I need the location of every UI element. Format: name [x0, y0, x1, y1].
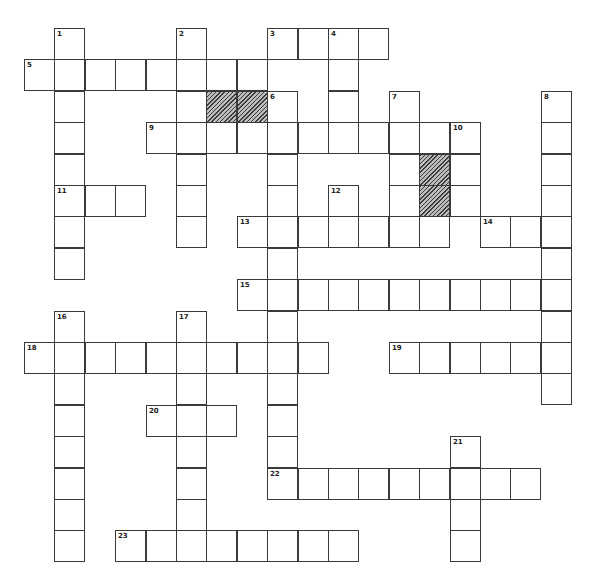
crossword-cell[interactable] [450, 279, 481, 311]
crossword-cell[interactable] [176, 405, 207, 437]
letter-input[interactable] [177, 92, 206, 122]
crossword-cell[interactable] [389, 216, 420, 248]
crossword-cell[interactable] [480, 279, 511, 311]
crossword-cell[interactable] [298, 530, 329, 562]
crossword-cell[interactable] [176, 436, 207, 468]
letter-input[interactable] [481, 343, 510, 373]
crossword-cell[interactable] [419, 216, 450, 248]
letter-input[interactable] [207, 60, 236, 90]
letter-input[interactable] [390, 123, 419, 153]
crossword-cell[interactable] [85, 59, 116, 91]
letter-input[interactable] [116, 186, 145, 216]
crossword-cell[interactable] [298, 28, 329, 60]
crossword-cell[interactable] [328, 530, 359, 562]
crossword-cell[interactable] [541, 185, 572, 217]
crossword-cell[interactable] [389, 279, 420, 311]
crossword-cell[interactable]: 15 [237, 279, 268, 311]
crossword-cell[interactable] [176, 59, 207, 91]
letter-input[interactable] [55, 29, 84, 59]
letter-input[interactable] [390, 186, 419, 216]
letter-input[interactable] [238, 217, 267, 247]
letter-input[interactable] [511, 280, 540, 310]
letter-input[interactable] [177, 155, 206, 185]
crossword-cell[interactable] [298, 216, 329, 248]
letter-input[interactable] [55, 469, 84, 499]
letter-input[interactable] [542, 155, 571, 185]
letter-input[interactable] [268, 29, 297, 59]
letter-input[interactable] [25, 343, 54, 373]
crossword-cell[interactable] [419, 342, 450, 374]
crossword-cell[interactable] [176, 342, 207, 374]
crossword-cell[interactable] [328, 91, 359, 123]
letter-input[interactable] [420, 469, 449, 499]
letter-input[interactable] [511, 217, 540, 247]
letter-input[interactable] [390, 469, 419, 499]
letter-input[interactable] [147, 531, 176, 561]
crossword-cell[interactable]: 13 [237, 216, 268, 248]
letter-input[interactable] [329, 92, 358, 122]
letter-input[interactable] [268, 531, 297, 561]
crossword-cell[interactable] [115, 59, 146, 91]
crossword-cell[interactable]: 8 [541, 91, 572, 123]
crossword-cell[interactable] [419, 468, 450, 500]
crossword-cell[interactable]: 3 [267, 28, 298, 60]
crossword-cell[interactable] [206, 530, 237, 562]
letter-input[interactable] [359, 469, 388, 499]
crossword-cell[interactable]: 11 [54, 185, 85, 217]
letter-input[interactable] [177, 374, 206, 404]
crossword-cell[interactable] [358, 28, 389, 60]
crossword-cell[interactable] [419, 279, 450, 311]
crossword-cell[interactable]: 14 [480, 216, 511, 248]
letter-input[interactable] [299, 280, 328, 310]
letter-input[interactable] [147, 343, 176, 373]
crossword-cell[interactable] [358, 468, 389, 500]
crossword-cell[interactable]: 9 [146, 122, 177, 154]
letter-input[interactable] [207, 343, 236, 373]
letter-input[interactable] [542, 92, 571, 122]
crossword-cell[interactable] [541, 122, 572, 154]
crossword-cell[interactable] [389, 154, 420, 186]
letter-input[interactable] [390, 155, 419, 185]
letter-input[interactable] [177, 312, 206, 342]
letter-input[interactable] [451, 186, 480, 216]
crossword-cell[interactable] [176, 185, 207, 217]
letter-input[interactable] [329, 217, 358, 247]
letter-input[interactable] [55, 123, 84, 153]
letter-input[interactable] [177, 186, 206, 216]
crossword-cell[interactable]: 22 [267, 468, 298, 500]
letter-input[interactable] [329, 60, 358, 90]
letter-input[interactable] [177, 60, 206, 90]
crossword-cell[interactable] [85, 342, 116, 374]
letter-input[interactable] [55, 217, 84, 247]
crossword-cell[interactable] [267, 342, 298, 374]
letter-input[interactable] [542, 249, 571, 279]
crossword-cell[interactable]: 6 [267, 91, 298, 123]
letter-input[interactable] [268, 280, 297, 310]
letter-input[interactable] [207, 406, 236, 436]
letter-input[interactable] [55, 374, 84, 404]
letter-input[interactable] [55, 437, 84, 467]
letter-input[interactable] [55, 531, 84, 561]
crossword-cell[interactable] [146, 59, 177, 91]
letter-input[interactable] [359, 280, 388, 310]
letter-input[interactable] [390, 280, 419, 310]
crossword-cell[interactable] [298, 342, 329, 374]
letter-input[interactable] [207, 123, 236, 153]
letter-input[interactable] [451, 500, 480, 530]
letter-input[interactable] [147, 60, 176, 90]
letter-input[interactable] [451, 469, 480, 499]
letter-input[interactable] [268, 92, 297, 122]
crossword-cell[interactable] [328, 216, 359, 248]
letter-input[interactable] [86, 186, 115, 216]
letter-input[interactable] [147, 123, 176, 153]
letter-input[interactable] [55, 343, 84, 373]
letter-input[interactable] [55, 312, 84, 342]
letter-input[interactable] [177, 469, 206, 499]
crossword-cell[interactable]: 20 [146, 405, 177, 437]
crossword-cell[interactable] [176, 373, 207, 405]
crossword-cell[interactable] [541, 311, 572, 343]
letter-input[interactable] [511, 469, 540, 499]
crossword-cell[interactable] [115, 185, 146, 217]
crossword-cell[interactable] [85, 185, 116, 217]
crossword-cell[interactable] [267, 122, 298, 154]
